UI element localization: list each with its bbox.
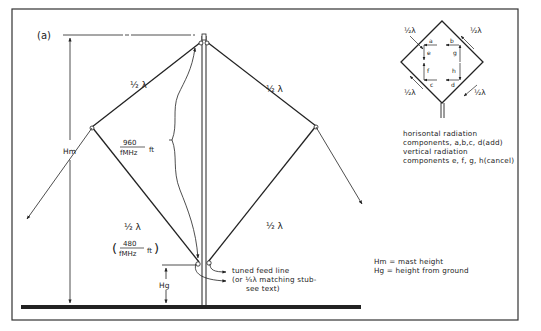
component-b: b <box>450 37 454 44</box>
inset-caption-line3: vertical radiation <box>403 147 514 156</box>
length-brace <box>169 48 198 258</box>
height-legend: Hm = mast height Hg = height from ground <box>374 257 469 275</box>
legend-hg: Hg = height from ground <box>374 266 469 275</box>
inset-caption-line4: components e, f, g, h(cancel) <box>403 156 514 165</box>
feed-note-line1: tuned feed line <box>232 266 317 275</box>
hm-dimension <box>63 35 195 303</box>
label-lower-left-half-lambda: ½ λ <box>124 222 142 232</box>
inset-label-bottom-left: ½λ <box>404 88 416 97</box>
lower-length-paren-open: ( <box>112 241 117 256</box>
feed-note-line3: see text) <box>232 284 317 293</box>
lower-length-denominator: fMHz <box>119 250 137 258</box>
inset-label-top-left: ½λ <box>404 26 416 35</box>
inset-caption-line2: components, a,b,c, d(add) <box>403 138 514 147</box>
lower-length-numerator: 480 <box>123 240 136 248</box>
component-f: f <box>427 67 430 74</box>
inset-caption-line1: horisontal radiation <box>403 129 514 138</box>
feed-note: tuned feed line (or ¼λ matching stub- se… <box>232 266 317 293</box>
label-lower-right-half-lambda: ½ λ <box>266 221 284 231</box>
component-a: a <box>429 37 433 44</box>
inset-caption: horisontal radiation components, a,b,c, … <box>403 129 514 165</box>
hg-label: Hg <box>159 281 170 290</box>
inset-label-top-right: ½λ <box>470 26 482 35</box>
panel-label: (a) <box>37 30 51 41</box>
inset-label-bottom-right: ½λ <box>474 88 486 97</box>
feed-line-arrows <box>195 264 226 281</box>
hm-label: Hm <box>63 147 76 156</box>
inset-quad-diagram <box>401 21 483 118</box>
upper-length-unit: ft <box>149 146 154 154</box>
lower-length-paren-close: ) <box>154 241 159 256</box>
legend-hm: Hm = mast height <box>374 257 469 266</box>
label-upper-left-half-lambda: ½ λ <box>130 80 148 90</box>
mast <box>202 34 206 306</box>
ground-line <box>21 305 361 309</box>
component-e: e <box>427 49 431 56</box>
upper-length-numerator: 960 <box>123 139 136 147</box>
component-d: d <box>451 81 455 88</box>
component-h: h <box>452 67 456 74</box>
component-g: g <box>453 49 457 57</box>
inset-labels: ½λ ½λ ½λ ½λ a b c d e f g h <box>404 26 486 97</box>
label-upper-right-half-lambda: ½ λ <box>266 84 284 94</box>
component-c: c <box>430 81 433 88</box>
upper-length-denominator: fMHz <box>120 149 138 157</box>
feed-note-line2: (or ¼λ matching stub- <box>232 275 317 284</box>
lower-length-unit: ft <box>147 247 152 255</box>
